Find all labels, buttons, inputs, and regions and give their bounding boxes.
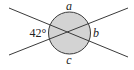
angle-label-a: a [66, 0, 72, 13]
angle-label-42: 42° [30, 26, 47, 40]
angle-label-b: b [93, 26, 99, 40]
angle-label-c: c [66, 53, 72, 67]
angle-diagram: a 42° b c [0, 0, 134, 70]
